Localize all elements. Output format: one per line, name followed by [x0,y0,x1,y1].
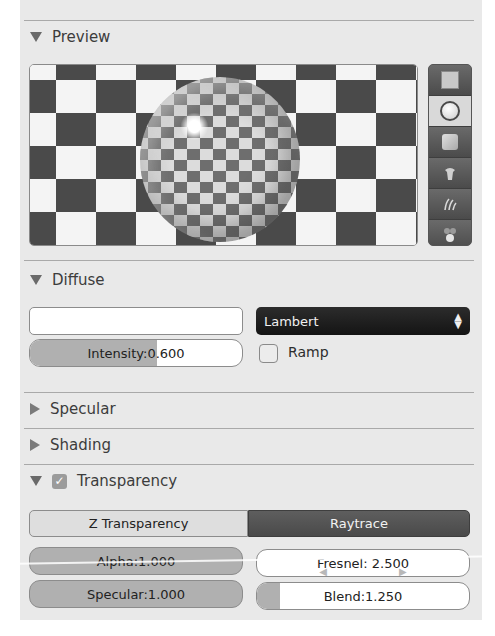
diffuse-shader-value: Lambert [264,314,319,329]
diffuse-panel-label: Diffuse [52,271,105,289]
divider [24,260,474,261]
raytrace-label: Raytrace [330,516,388,531]
slider-fill [257,583,280,609]
specular-transparency-label: Specular:1.000 [87,587,185,602]
hair-strands-icon [442,196,458,212]
z-transparency-tab[interactable]: Z Transparency [29,510,248,537]
preview-panel-label: Preview [52,28,110,46]
diffuse-panel-header[interactable]: Diffuse [30,271,105,289]
transparency-enable-checkbox[interactable]: ✓ [52,474,67,489]
dropdown-updown-arrows-icon: ▲▼ [454,313,462,329]
specular-panel-label: Specular [50,400,116,418]
diffuse-shader-dropdown[interactable]: Lambert ▲▼ [256,307,470,335]
collapse-triangle-icon [30,275,42,285]
blend-label: Blend:1.250 [324,589,403,604]
divider [24,392,474,393]
monkey-icon [442,165,458,181]
transparency-panel-label: Transparency [77,472,177,490]
z-transparency-label: Z Transparency [89,516,189,531]
divider [24,20,474,21]
preview-type-cube-button[interactable] [429,127,471,158]
diffuse-intensity-slider[interactable]: Intensity:0.600 [29,339,243,367]
preview-type-plane-button[interactable] [429,65,471,96]
fresnel-number-field[interactable]: ◀ Fresnel: 2.500 ▶ [256,549,470,577]
shading-panel-label: Shading [50,436,111,454]
preview-panel-header[interactable]: Preview [30,28,110,46]
preview-type-sphere-button[interactable] [429,96,471,127]
collapse-triangle-icon [30,32,42,42]
preview-type-monkey-button[interactable] [429,158,471,189]
sphere-icon [440,101,460,121]
specular-transparency-slider[interactable]: Specular:1.000 [29,580,243,608]
diffuse-color-swatch[interactable] [29,307,243,335]
cube-icon [442,134,458,150]
preview-type-toolbar [428,64,472,246]
specular-panel-header[interactable]: Specular [30,400,116,418]
collapse-triangle-icon [30,476,42,486]
raytrace-tab[interactable]: Raytrace [248,510,470,537]
divider [24,464,474,465]
diffuse-intensity-label: Intensity:0.600 [87,346,184,361]
world-spheres-icon [442,227,458,243]
preview-sphere [140,77,300,242]
blend-slider[interactable]: Blend:1.250 [256,582,470,610]
plane-icon [441,71,459,89]
preview-type-world-button[interactable] [429,220,471,246]
ramp-label: Ramp [288,344,329,360]
material-preview-render [29,64,418,246]
preview-type-hair-button[interactable] [429,189,471,220]
transparency-panel-header[interactable]: ✓ Transparency [30,472,177,490]
shading-panel-header[interactable]: Shading [30,436,111,454]
expand-triangle-icon [30,403,40,415]
increment-arrow-icon[interactable]: ▶ [399,565,407,576]
expand-triangle-icon [30,439,40,451]
ramp-checkbox[interactable] [259,344,278,363]
divider [24,428,474,429]
